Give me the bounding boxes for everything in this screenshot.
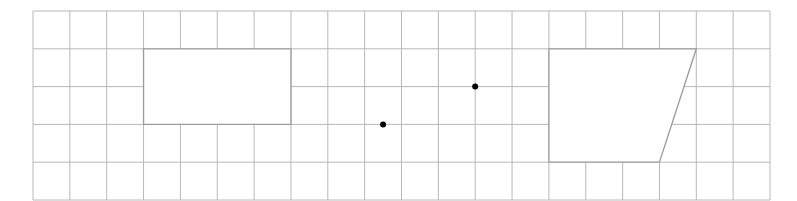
point-b [472,84,478,90]
rectangle-shape [144,49,291,125]
trapezoid-shape [549,49,696,162]
grid-diagram [0,0,797,201]
shapes [144,49,697,162]
points [380,84,478,128]
point-a [380,121,386,127]
